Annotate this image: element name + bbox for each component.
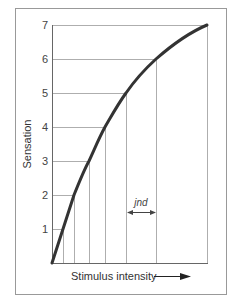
x-axis-title: Stimulus intensity xyxy=(71,270,157,282)
jnd-label: jnd xyxy=(132,197,148,208)
x-direction-arrow-icon xyxy=(154,273,191,280)
y-tick-1: 1 xyxy=(42,223,48,235)
jnd-annotation: jnd xyxy=(127,197,156,215)
y-tick-3: 3 xyxy=(42,155,48,167)
arrow-left-icon xyxy=(127,210,133,215)
horizontal-guides xyxy=(52,26,207,230)
y-tick-4: 4 xyxy=(42,121,48,133)
chart: 1 2 3 4 5 6 7 jnd Sensation Stimulus int… xyxy=(0,0,242,303)
y-tick-6: 6 xyxy=(42,53,48,65)
y-tick-7: 7 xyxy=(42,19,48,31)
arrow-right-icon xyxy=(150,210,156,215)
sensation-curve xyxy=(52,25,207,263)
y-tick-5: 5 xyxy=(42,87,48,99)
y-tick-labels: 1 2 3 4 5 6 7 xyxy=(42,19,48,235)
y-tick-2: 2 xyxy=(42,189,48,201)
y-axis-title: Sensation xyxy=(21,120,33,169)
chart-frame xyxy=(16,9,227,295)
vertical-guides xyxy=(64,25,208,263)
